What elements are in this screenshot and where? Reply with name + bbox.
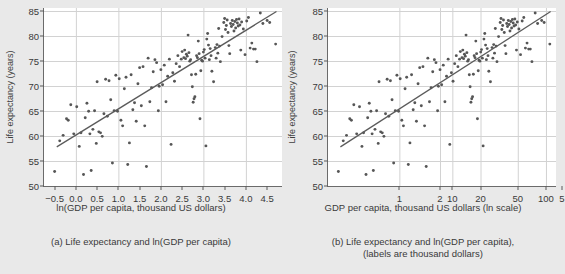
- panel-b-y-tick-mark: [324, 110, 328, 111]
- panel-b: Life expectancy (years) 5055606570758085…: [282, 0, 564, 274]
- panel-a-x-axis-title: ln(GDP per capita, thousand US dollars): [0, 202, 282, 213]
- panel-a-y-tick-mark: [40, 35, 44, 36]
- panel-b-y-tick-mark: [324, 186, 328, 187]
- panel-a-x-tick-mark: [160, 186, 161, 190]
- panel-b-y-tick-mark: [324, 160, 328, 161]
- panel-a-y-tick-mark: [40, 160, 44, 161]
- panel-b-y-tick-mark: [324, 85, 328, 86]
- panel-a-y-tick-mark: [40, 135, 44, 136]
- panel-b-caption: (b) Life expectancy and ln(GDP per capit…: [282, 236, 564, 260]
- panel-a-svg: [44, 8, 282, 186]
- panel-a-x-tick-mark: [267, 186, 268, 190]
- panel-b-x-tick-mark: [545, 186, 546, 190]
- panel-b-y-tick-label: 85: [312, 5, 323, 16]
- panel-b-y-tick-mark: [324, 35, 328, 36]
- panel-a-y-tick-mark: [40, 186, 44, 187]
- panel-b-y-tick-mark: [324, 10, 328, 11]
- panel-a-plot-area: 5055606570758085 −0.50.00.51.01.52.02.53…: [44, 8, 282, 186]
- panel-a-caption-line1: (a) Life expectancy and ln(GDP per capit…: [0, 236, 282, 248]
- panel-a-x-tick-mark: [118, 186, 119, 190]
- panel-b-y-tick-mark: [324, 135, 328, 136]
- panel-a-y-tick-label: 80: [28, 30, 39, 41]
- panel-b-x-tick-mark: [517, 186, 518, 190]
- panel-a-y-tick-label: 70: [28, 80, 39, 91]
- panel-b-y-tick-label: 50: [312, 181, 323, 192]
- panel-b-svg: [328, 8, 556, 186]
- panel-b-x-tick-mark: [452, 186, 453, 190]
- panel-a-y-tick-label: 85: [28, 5, 39, 16]
- panel-b-canvas: [328, 8, 556, 186]
- panel-b-plot-area: 5055606570758085 125102050100: [328, 8, 556, 186]
- panel-a-canvas: [44, 8, 282, 186]
- panel-a-x-tick-mark: [182, 186, 183, 190]
- panel-a-x-tick-mark: [203, 186, 204, 190]
- panel-a-y-tick-label: 75: [28, 55, 39, 66]
- panel-b-y-tick-label: 75: [312, 55, 323, 66]
- panel-a-caption: (a) Life expectancy and ln(GDP per capit…: [0, 236, 282, 248]
- panel-a-y-tick-mark: [40, 60, 44, 61]
- panel-b-y-tick-label: 80: [312, 30, 323, 41]
- panel-a-y-tick-mark: [40, 110, 44, 111]
- panel-a-y-tick-mark: [40, 10, 44, 11]
- panel-b-x-tick-mark: [562, 186, 563, 190]
- panel-a-y-tick-label: 65: [28, 105, 39, 116]
- panel-b-x-tick-mark: [399, 186, 400, 190]
- panel-b-x-tick-mark: [440, 186, 441, 190]
- panel-a-y-tick-label: 50: [28, 181, 39, 192]
- panel-b-x-axis-line: [327, 186, 556, 187]
- panel-a-y-tick-label: 60: [28, 130, 39, 141]
- panel-a-y-axis-title: Life expectancy (years): [5, 2, 19, 192]
- panel-a-x-tick-mark: [245, 186, 246, 190]
- panel-b-caption-line1: (b) Life expectancy and ln(GDP per capit…: [282, 236, 564, 248]
- panel-a-x-tick-mark: [139, 186, 140, 190]
- panel-a-x-tick-mark: [54, 186, 55, 190]
- panel-b-y-tick-label: 55: [312, 155, 323, 166]
- panel-a-y-tick-mark: [40, 85, 44, 86]
- panel-b-caption-line2: (labels are thousand dollars): [282, 248, 564, 260]
- panel-b-y-tick-label: 60: [312, 130, 323, 141]
- panel-a-x-tick-mark: [97, 186, 98, 190]
- panel-b-y-tick-label: 65: [312, 105, 323, 116]
- panel-b-x-tick-mark: [480, 186, 481, 190]
- panel-a: Life expectancy (years) 5055606570758085…: [0, 0, 282, 274]
- panel-b-y-tick-mark: [324, 60, 328, 61]
- panel-b-y-axis-title: Life expectancy (years): [287, 2, 301, 192]
- panel-a-y-tick-label: 55: [28, 155, 39, 166]
- panel-a-x-tick-mark: [75, 186, 76, 190]
- panel-b-y-tick-label: 70: [312, 80, 323, 91]
- panel-a-x-tick-mark: [224, 186, 225, 190]
- panel-b-x-axis-title: GDP per capita, thousand US dollars (ln …: [282, 202, 564, 213]
